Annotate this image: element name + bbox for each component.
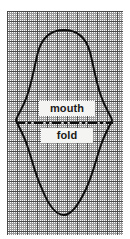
pattern-drawing-layer xyxy=(0,0,130,239)
figure-canvas: mouth fold xyxy=(0,0,130,239)
label-fold: fold xyxy=(41,128,93,143)
label-mouth: mouth xyxy=(39,101,95,116)
